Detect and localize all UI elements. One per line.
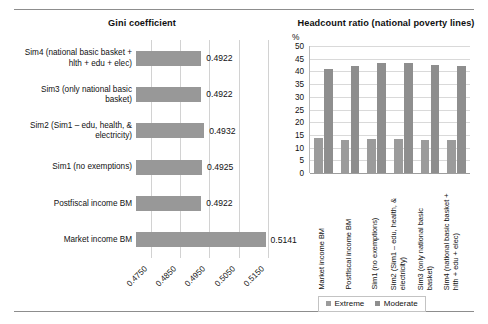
gini-category-label: Market income BM	[4, 235, 132, 246]
headcount-bar-group	[390, 46, 417, 173]
headcount-category-label: Market income BM	[318, 178, 327, 290]
gini-bars: 0.51410.49220.49250.49320.49220.4922	[136, 40, 280, 258]
headcount-y-tick-label: 25	[295, 105, 304, 114]
legend-label-moderate: Moderate	[384, 299, 418, 308]
headcount-bar-group	[417, 46, 444, 173]
headcount-category-label: Sim2 (Sim1 – edu, health, &electricity)	[390, 178, 407, 290]
gini-bar	[136, 160, 202, 175]
headcount-y-axis-ticks: 05101520253035404550	[284, 46, 306, 173]
gini-x-tick-label: 0.4950	[183, 264, 207, 288]
gini-x-tick-label: 0.5150	[242, 264, 266, 288]
gini-x-tick-label: 0.5050	[213, 264, 237, 288]
gini-bar	[136, 232, 266, 247]
headcount-bar	[367, 139, 376, 173]
legend-swatch-moderate	[375, 301, 380, 306]
legend-item-extreme: Extreme	[326, 299, 364, 308]
headcount-y-axis-unit: %	[292, 32, 299, 42]
gini-bar-value-label: 0.4925	[207, 162, 233, 172]
headcount-bar	[431, 65, 440, 173]
headcount-bar	[314, 138, 323, 173]
headcount-bar-group	[310, 46, 337, 173]
headcount-y-tick-label: 15	[295, 130, 304, 139]
headcount-y-tick-label: 20	[295, 118, 304, 127]
gini-x-tick-label: 0.4750	[125, 264, 149, 288]
gini-bar	[136, 87, 201, 102]
gini-bar-row: 0.4922	[136, 185, 280, 221]
gini-category-label: Sim2 (Sim1 – edu, health, &electricity)	[4, 120, 132, 141]
headcount-y-tick-label: 40	[295, 67, 304, 76]
headcount-y-tick-label: 35	[295, 80, 304, 89]
gini-chart-title: Gini coefficient	[0, 18, 284, 28]
headcount-category-labels: Market income BMPostfiscal income BMSim1…	[309, 175, 469, 290]
gini-category-label: Sim3 (only national basicbasket)	[4, 84, 132, 105]
gini-bar-value-label: 0.4932	[209, 126, 235, 136]
gini-bar-value-label: 0.4922	[206, 198, 232, 208]
gini-bar-row: 0.4922	[136, 40, 280, 76]
headcount-y-tick-label: 50	[295, 42, 304, 51]
headcount-bar	[341, 140, 350, 173]
headcount-gridline	[310, 173, 470, 174]
gini-bar-row: 0.4932	[136, 113, 280, 149]
gini-category-label: Sim1 (no exemptions)	[4, 162, 132, 173]
headcount-category-label: Sim1 (no exemptions)	[372, 178, 381, 290]
figure-top-rule	[14, 9, 474, 10]
headcount-bar	[377, 63, 386, 173]
headcount-category-label: Sim3 (only national basicbasket)	[416, 178, 433, 290]
legend-swatch-extreme	[326, 301, 331, 306]
gini-category-label: Postfiscal income BM	[4, 198, 132, 209]
headcount-y-tick-label: 10	[295, 143, 304, 152]
gini-bar	[136, 196, 201, 211]
headcount-bar-group	[337, 46, 364, 173]
headcount-bar	[324, 69, 333, 173]
gini-chart: Gini coefficient Market income BMPostfis…	[0, 18, 284, 306]
gini-bar-row: 0.4925	[136, 149, 280, 185]
headcount-legend: Extreme Moderate	[318, 296, 426, 312]
headcount-bar-group	[443, 46, 470, 173]
headcount-bar	[351, 66, 360, 173]
gini-bar-value-label: 0.4922	[206, 53, 232, 63]
gini-bar	[136, 51, 201, 66]
figure-panel: Gini coefficient Market income BMPostfis…	[0, 0, 488, 324]
headcount-category-label: Sim4 (national basic basket +hlth + edu …	[443, 178, 460, 290]
headcount-bar	[394, 139, 403, 173]
headcount-plot-area	[309, 46, 470, 173]
headcount-y-tick-label: 5	[299, 156, 304, 165]
gini-bar-row: 0.4922	[136, 76, 280, 112]
headcount-chart-title: Headcount ratio (national poverty lines)	[278, 18, 488, 28]
legend-item-moderate: Moderate	[375, 299, 417, 308]
headcount-category-label: Postfiscal income BM	[345, 178, 354, 290]
gini-bar	[136, 123, 204, 138]
headcount-bar	[404, 63, 413, 173]
headcount-chart: Headcount ratio (national poverty lines)…	[284, 18, 488, 318]
headcount-bar	[447, 140, 456, 173]
gini-bar-value-label: 0.4922	[206, 89, 232, 99]
headcount-bars	[310, 46, 470, 173]
headcount-y-tick-label: 0	[299, 169, 304, 178]
gini-x-tick-label: 0.4850	[154, 264, 178, 288]
headcount-bar	[421, 140, 430, 173]
headcount-bar-group	[363, 46, 390, 173]
headcount-y-tick-label: 45	[295, 54, 304, 63]
gini-plot-area: 0.51410.49220.49250.49320.49220.4922	[136, 40, 280, 258]
gini-bar-row: 0.5141	[136, 222, 280, 258]
legend-label-extreme: Extreme	[335, 299, 365, 308]
gini-category-labels: Market income BMPostfiscal income BMSim1…	[2, 40, 132, 258]
headcount-bar	[457, 66, 466, 173]
headcount-y-tick-label: 30	[295, 92, 304, 101]
gini-category-label: Sim4 (national basic basket +hlth + edu …	[4, 48, 132, 69]
